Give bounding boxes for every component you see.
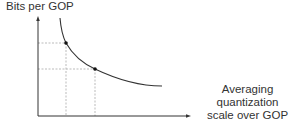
rate-curve xyxy=(60,18,162,86)
y-axis-arrow-icon xyxy=(36,16,40,21)
data-point-2 xyxy=(93,67,97,71)
guide-lines xyxy=(38,43,95,116)
x-axis-label: Averaging quantization scale over GOP xyxy=(190,83,305,122)
x-axis-label-line-2: scale over GOP xyxy=(190,109,305,122)
x-axis-label-line-1: Averaging quantization xyxy=(190,83,305,109)
data-point-1 xyxy=(64,41,68,45)
